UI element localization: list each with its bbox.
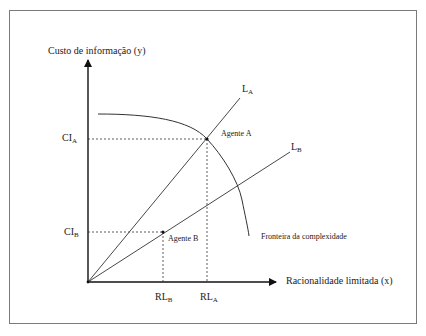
label-la: LA [242, 84, 253, 96]
line-lb [88, 152, 290, 282]
agent-a-point [205, 137, 208, 140]
tick-cib: CIB [64, 227, 79, 239]
label-lb: LB [291, 142, 302, 154]
tick-rlb: RLB [155, 292, 172, 304]
agent-b-label: Agente B [168, 235, 198, 243]
x-axis-label: Racionalidade limitada (x) [286, 276, 393, 286]
frontier-label: Fronteira da complexidade [261, 233, 347, 241]
origin-point [87, 281, 90, 284]
tick-cia: CIA [62, 133, 77, 145]
tick-rla: RLA [200, 292, 218, 304]
agent-a-label: Agente A [221, 130, 251, 138]
agent-b-point [161, 230, 164, 233]
line-la [88, 98, 240, 282]
y-axis-label: Custo de informação (y) [48, 46, 145, 56]
